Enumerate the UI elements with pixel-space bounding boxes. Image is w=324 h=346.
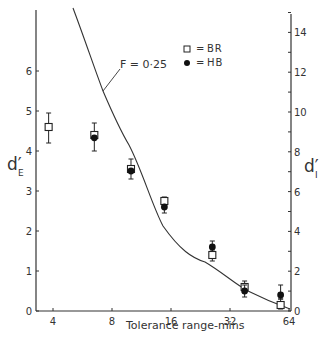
x-tick-label: 4 bbox=[50, 316, 56, 327]
legend-label: HB bbox=[207, 57, 223, 68]
legend-equals: = bbox=[196, 43, 205, 54]
right-tick-label: 12 bbox=[294, 67, 307, 78]
hb-point bbox=[277, 292, 284, 299]
right-tick-label: 2 bbox=[294, 266, 300, 277]
right-tick-label: 6 bbox=[294, 187, 300, 198]
hb-point bbox=[128, 168, 135, 175]
x-axis-label: Tolerance range-mins bbox=[125, 319, 245, 332]
x-tick-label: 64 bbox=[283, 316, 296, 327]
right-tick-label: 8 bbox=[294, 147, 300, 158]
left-tick-label: 0 bbox=[26, 306, 32, 317]
theory-curve-f025 bbox=[73, 8, 290, 309]
hb-point bbox=[209, 244, 216, 251]
left-y-label: d′ E bbox=[7, 154, 24, 178]
hb-point bbox=[161, 204, 168, 211]
axes bbox=[36, 10, 291, 311]
br-point bbox=[45, 124, 52, 131]
data-points bbox=[45, 113, 284, 309]
right-y-label: d′ I bbox=[304, 156, 319, 180]
legend-dot-icon bbox=[184, 60, 190, 66]
left-tick-label: 3 bbox=[26, 186, 32, 197]
left-tick-label: 6 bbox=[26, 66, 32, 77]
chart: 0123456 02468101214 48163264 F = 0·25 =B… bbox=[0, 0, 324, 346]
right-y-label-sub: I bbox=[315, 170, 318, 180]
annotation-label: F = 0·25 bbox=[120, 58, 167, 71]
curve-annotation: F = 0·25 bbox=[103, 58, 167, 91]
br-point bbox=[161, 198, 168, 205]
right-tick-label: 10 bbox=[294, 107, 307, 118]
legend-square-icon bbox=[184, 46, 190, 52]
br-point bbox=[277, 302, 284, 309]
hb-point bbox=[91, 134, 98, 141]
legend: =BR=HB bbox=[184, 43, 223, 68]
hb-point bbox=[241, 288, 248, 295]
left-y-label-sub: E bbox=[18, 168, 24, 178]
legend-equals: = bbox=[196, 57, 205, 68]
annotation-leader-line bbox=[103, 69, 120, 91]
left-tick-label: 2 bbox=[26, 226, 32, 237]
right-tick-label: 4 bbox=[294, 226, 300, 237]
left-tick-label: 1 bbox=[26, 266, 32, 277]
right-tick-label: 14 bbox=[294, 27, 307, 38]
left-tick-label: 4 bbox=[26, 146, 32, 157]
x-tick-label: 8 bbox=[109, 316, 115, 327]
legend-label: BR bbox=[207, 43, 223, 54]
br-point bbox=[209, 252, 216, 259]
left-y-ticks: 0123456 bbox=[26, 66, 39, 317]
left-tick-label: 5 bbox=[26, 106, 32, 117]
